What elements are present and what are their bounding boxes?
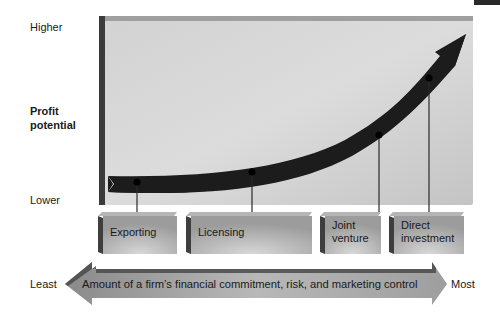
y-high-label: Higher bbox=[30, 21, 62, 34]
entry-mode-label: Licensing bbox=[198, 226, 244, 239]
curve-point bbox=[134, 179, 141, 186]
x-left-label: Least bbox=[30, 278, 57, 291]
entry-mode-label-line2: investment bbox=[401, 232, 454, 245]
y-axis-title-line2: potential bbox=[30, 119, 76, 132]
entry-mode-label: Joint bbox=[332, 219, 355, 232]
curve-point bbox=[376, 132, 383, 139]
entry-mode-label: Direct bbox=[401, 219, 430, 232]
y-axis-title-line1: Profit bbox=[30, 105, 59, 118]
curve-point bbox=[249, 169, 256, 176]
entry-mode-label: Exporting bbox=[110, 226, 156, 239]
entry-mode-label-line2: venture bbox=[332, 232, 369, 245]
x-right-label: Most bbox=[451, 278, 475, 291]
curve-point bbox=[426, 75, 433, 82]
x-arrow-label: Amount of a firm’s financial commitment,… bbox=[82, 278, 418, 291]
y-low-label: Lower bbox=[30, 194, 60, 207]
